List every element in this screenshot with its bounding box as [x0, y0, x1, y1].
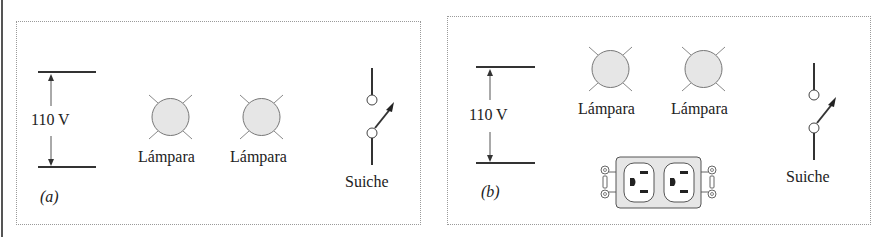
panel-b: [447, 16, 871, 225]
voltage-label-b: 110 V: [469, 106, 508, 124]
switch-label-a: Suiche: [345, 173, 389, 191]
switch-a-icon: [367, 68, 394, 165]
lamp-a1-icon: [149, 95, 192, 139]
panel-caption-a: (a): [40, 188, 59, 206]
lamp-label-a2: Lámpara: [230, 148, 287, 166]
switch-label-b: Suiche: [786, 168, 830, 186]
panel-caption-b: (b): [481, 183, 500, 201]
lamp-label-a1: Lámpara: [138, 148, 195, 166]
lamp-a2-icon: [240, 95, 283, 139]
lamp-label-b1: Lámpara: [578, 100, 635, 118]
voltage-label-a: 110 V: [31, 111, 70, 129]
lamp-label-b2: Lámpara: [671, 100, 728, 118]
